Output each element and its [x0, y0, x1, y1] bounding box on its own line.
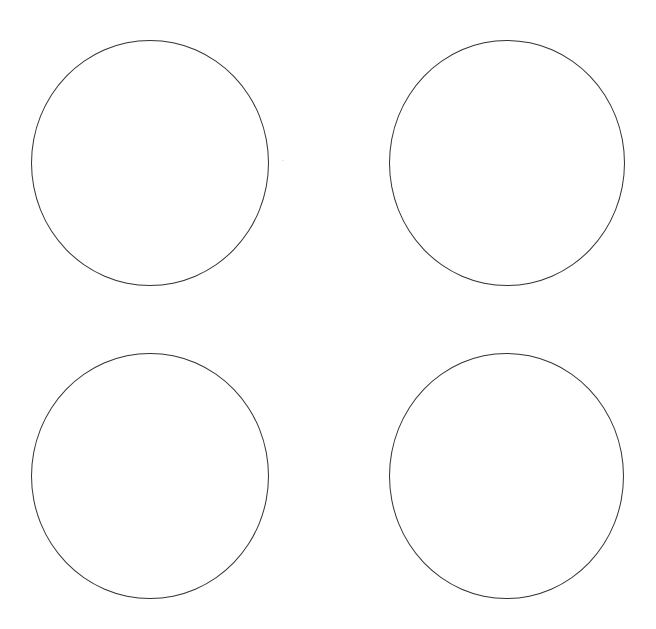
circle-bottom-left [31, 353, 269, 599]
circle-top-right [389, 40, 625, 286]
clipped-header-text [0, 0, 656, 3]
circle-bottom-right [389, 353, 624, 599]
circle-top-left [31, 40, 269, 286]
scan-artifact [282, 160, 284, 161]
